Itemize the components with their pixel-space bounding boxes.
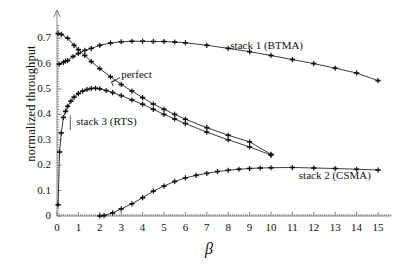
data-point-marker	[204, 43, 209, 48]
data-point-marker	[311, 61, 316, 66]
annotation-stack-2-csma-: stack 2 (CSMA)	[299, 169, 371, 181]
data-point-marker	[82, 48, 87, 53]
data-point-marker	[247, 139, 252, 144]
data-point-marker	[247, 144, 252, 149]
data-point-marker	[119, 82, 124, 87]
x-tick-label: 15	[364, 221, 392, 233]
data-point-marker	[129, 39, 134, 44]
data-point-marker	[183, 121, 188, 126]
y-tick-label: 0.1	[21, 184, 51, 196]
axes	[54, 10, 391, 216]
y-tick-label: 0.4	[21, 107, 51, 119]
data-point-marker	[63, 109, 68, 114]
data-point-marker	[59, 130, 64, 135]
annotation-perfect: perfect	[121, 68, 152, 80]
data-point-marker	[204, 125, 209, 130]
data-point-marker	[161, 39, 166, 44]
data-point-marker	[161, 112, 166, 117]
data-point-marker	[183, 40, 188, 45]
data-point-marker	[161, 107, 166, 112]
data-point-marker	[151, 107, 156, 112]
data-point-marker	[268, 165, 273, 170]
data-point-marker	[97, 43, 102, 48]
data-point-marker	[172, 116, 177, 121]
data-point-marker	[172, 39, 177, 44]
series-stack-1-btma-	[57, 39, 381, 84]
data-point-marker	[183, 175, 188, 180]
data-point-marker	[129, 97, 134, 102]
data-point-marker	[375, 167, 380, 172]
data-point-marker	[119, 39, 124, 44]
data-point-marker	[104, 88, 109, 93]
data-point-marker	[161, 183, 166, 188]
x-axis-label: β	[205, 240, 213, 258]
annotation-stack-1-btma-: stack 1 (BTMA)	[230, 39, 303, 51]
data-point-marker	[375, 78, 380, 83]
data-point-marker	[101, 213, 106, 218]
data-point-marker	[140, 102, 145, 107]
y-tick-label: 0.7	[21, 31, 51, 43]
data-point-marker	[226, 137, 231, 142]
data-point-marker	[108, 40, 113, 45]
data-point-marker	[129, 88, 134, 93]
series-stack-3-rts-	[55, 86, 273, 208]
data-point-marker	[354, 70, 359, 75]
data-point-marker	[236, 167, 241, 172]
data-point-marker	[59, 32, 64, 37]
data-point-marker	[151, 39, 156, 44]
data-point-marker	[140, 39, 145, 44]
data-point-marker	[290, 165, 295, 170]
y-tick-label: 0.3	[21, 133, 51, 145]
data-point-marker	[268, 53, 273, 58]
throughput-chart-figure: normalized throughput β 0123456789101112…	[0, 0, 401, 272]
data-point-marker	[290, 57, 295, 62]
data-point-marker	[119, 93, 124, 98]
y-tick-label: 0.5	[21, 82, 51, 94]
data-point-marker	[129, 201, 134, 206]
data-point-marker	[247, 166, 252, 171]
y-axis-label: normalized throughput	[24, 29, 39, 179]
data-point-marker	[194, 173, 199, 178]
y-tick-label: 0	[21, 209, 51, 221]
y-tick-label: 0.2	[21, 158, 51, 170]
data-point-marker	[226, 168, 231, 173]
data-point-marker	[140, 95, 145, 100]
data-point-marker	[55, 202, 60, 207]
data-point-marker	[172, 179, 177, 184]
data-point-marker	[151, 189, 156, 194]
data-point-marker	[151, 101, 156, 106]
y-tick-label: 0.6	[21, 57, 51, 69]
data-point-marker	[119, 206, 124, 211]
data-point-marker	[89, 46, 94, 51]
data-point-marker	[204, 171, 209, 176]
data-point-marker	[333, 66, 338, 71]
data-point-marker	[258, 165, 263, 170]
data-point-marker	[172, 112, 177, 117]
data-point-marker	[61, 115, 66, 120]
data-point-marker	[110, 90, 115, 95]
data-point-marker	[97, 86, 102, 91]
data-point-marker	[215, 169, 220, 174]
data-point-marker	[204, 130, 209, 135]
data-point-marker	[140, 195, 145, 200]
annotation-stack-3-rts-: stack 3 (RTS)	[76, 115, 136, 127]
data-point-marker	[226, 133, 231, 138]
data-point-marker	[65, 104, 70, 109]
